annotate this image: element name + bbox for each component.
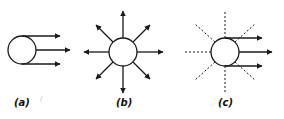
- circle-b: [109, 38, 137, 66]
- label-a: (a): [14, 97, 30, 108]
- stray-mark: /: [40, 95, 43, 103]
- panel-b: (b): [84, 11, 163, 108]
- circle-c: [211, 38, 239, 66]
- arrow-b-downleft: [96, 62, 113, 79]
- arrow-b-downright: [133, 62, 150, 79]
- circle-a: [8, 36, 36, 64]
- panel-c: (c): [185, 12, 272, 108]
- arrow-b-upleft: [96, 25, 113, 42]
- diagram-canvas: (a) / (b) (c): [0, 0, 284, 119]
- arrow-b-upright: [133, 25, 150, 42]
- label-c: (c): [218, 97, 233, 108]
- panel-a: (a) /: [8, 36, 70, 108]
- label-b: (b): [116, 97, 132, 108]
